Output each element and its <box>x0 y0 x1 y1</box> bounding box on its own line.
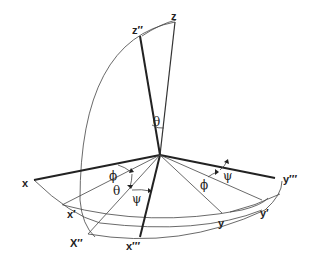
label-x-prime: x′ <box>67 208 76 220</box>
axis-y-prime <box>160 155 262 200</box>
meridian-arc-z-double-prime <box>80 22 175 237</box>
label-theta-top: θ <box>153 115 160 129</box>
arc-psi-left <box>132 190 150 191</box>
label-phi-right: ϕ <box>200 178 208 192</box>
label-y-triple-prime: y′′′ <box>283 173 297 185</box>
arrowhead-psi-right <box>224 159 229 164</box>
label-y: y <box>218 217 225 229</box>
label-phi-left: ϕ <box>109 169 117 183</box>
axis-z <box>160 22 175 155</box>
label-psi-left: ψ <box>132 192 141 206</box>
label-theta-left: θ <box>113 184 120 198</box>
axis-z-double-prime <box>140 36 160 155</box>
axis-x-triple-prime <box>140 155 160 237</box>
label-x: x <box>22 177 29 189</box>
arc-phi-left <box>118 165 131 172</box>
equator-arc-xprime-yprime <box>63 198 268 218</box>
label-z-double-prime: z′′ <box>132 24 143 36</box>
arc-top <box>142 20 176 36</box>
axis-y <box>160 155 222 213</box>
label-y-prime: y′ <box>260 207 269 219</box>
label-psi-right: ψ <box>223 169 232 183</box>
euler-angles-diagram: z z′′ x x′ X′′ x′′′ y y′ y′′′ θ ϕ θ ψ ψ … <box>0 0 320 264</box>
arrowhead-phi-right <box>215 169 219 175</box>
label-x-triple-prime: x′′′ <box>126 240 140 252</box>
label-z: z <box>171 10 177 22</box>
label-x-double-prime: X′′ <box>70 237 83 249</box>
axis-y-triple-prime <box>160 155 275 178</box>
